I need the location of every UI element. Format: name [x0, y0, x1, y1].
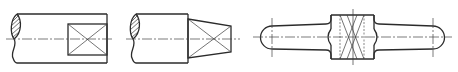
break-section-icon: [11, 14, 20, 63]
drawing-canvas: [0, 0, 458, 72]
view-handle-with-flats: [253, 9, 452, 65]
rounded-end-left: [261, 26, 273, 49]
tapered-flat: [188, 19, 231, 58]
view-shaft-square-end: [6, 14, 112, 63]
rounded-end-right: [433, 26, 445, 49]
break-section-icon: [130, 14, 139, 63]
flat-cross-line: [188, 19, 231, 52]
view-shaft-tapered-end: [126, 14, 240, 63]
